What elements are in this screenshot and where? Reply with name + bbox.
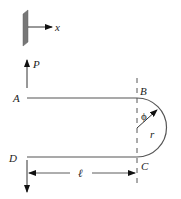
- wall-support: [23, 10, 28, 46]
- radius-r-label: r: [150, 128, 155, 140]
- x-axis-label: x: [54, 21, 60, 33]
- angle-phi-label: ϕ: [141, 110, 147, 122]
- point-a-label: A: [12, 92, 20, 104]
- point-c-label: C: [141, 160, 149, 172]
- radius-arrow: [137, 110, 157, 128]
- point-d-label: D: [8, 152, 17, 164]
- load-p-label: P: [32, 58, 40, 70]
- point-b-label: B: [140, 85, 147, 97]
- diagram-canvas: x P A B C D ϕ r ℓ: [0, 0, 181, 199]
- curved-bar: [27, 98, 167, 157]
- length-label: ℓ: [78, 167, 83, 179]
